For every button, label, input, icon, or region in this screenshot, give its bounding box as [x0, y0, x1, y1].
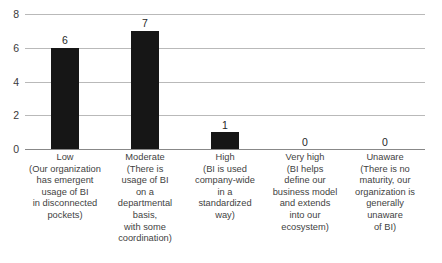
x-axis-category-unaware: Unaware (There is no maturity, our organ… — [345, 152, 425, 233]
x-axis-category-high: High (BI is used company-wide in a stand… — [185, 152, 265, 222]
bar-slot: 0 — [345, 14, 425, 149]
axis-baseline — [25, 149, 425, 150]
x-axis-category-label: Low (Our organization has emergent usage… — [25, 152, 105, 222]
y-axis-tick-label: 4 — [13, 76, 19, 87]
x-axis-category-very-high: Very high (BI helps define our business … — [265, 152, 345, 233]
y-axis-tick-label: 0 — [13, 144, 19, 155]
bar-value-label: 0 — [302, 137, 308, 148]
bars-group: 67100 — [25, 14, 425, 149]
bar-slot: 0 — [265, 14, 345, 149]
x-axis-category-low: Low (Our organization has emergent usage… — [25, 152, 105, 222]
bar[interactable] — [51, 48, 79, 149]
bar-slot: 1 — [185, 14, 265, 149]
bar-value-label: 6 — [62, 35, 68, 46]
bar-value-label: 0 — [382, 137, 388, 148]
x-axis-category-label: Very high (BI helps define our business … — [265, 152, 345, 233]
bar-value-label: 1 — [222, 120, 228, 131]
y-axis-tick-label: 8 — [13, 9, 19, 20]
bar[interactable] — [211, 132, 239, 149]
bar-slot: 7 — [105, 14, 185, 149]
y-axis-tick-label: 6 — [13, 43, 19, 54]
x-axis-category-label: Moderate (There is usage of BI on a depa… — [105, 152, 185, 245]
x-axis-category-moderate: Moderate (There is usage of BI on a depa… — [105, 152, 185, 245]
plot-area: 67100 — [25, 14, 425, 149]
bar[interactable] — [131, 31, 159, 149]
bar-value-label: 7 — [142, 18, 148, 29]
y-axis-tick-labels: 02468 — [0, 0, 25, 163]
x-axis-category-label: Unaware (There is no maturity, our organ… — [345, 152, 425, 233]
y-axis-tick-label: 2 — [13, 110, 19, 121]
x-axis-category-label: High (BI is used company-wide in a stand… — [185, 152, 265, 222]
x-axis-category-labels: Low (Our organization has emergent usage… — [25, 152, 425, 260]
bar-chart-figure: 02468 67100 Low (Our organization has em… — [0, 0, 442, 263]
bar-slot: 6 — [25, 14, 105, 149]
